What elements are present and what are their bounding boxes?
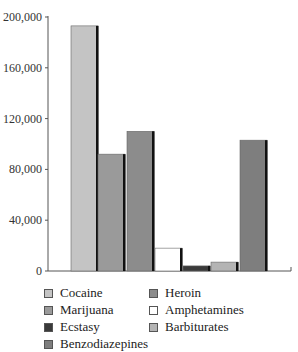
y-tick-label: 160,000 — [3, 61, 42, 75]
legend-swatch — [44, 289, 53, 298]
legend-label: Amphetamines — [165, 302, 244, 318]
y-tick-label: 200,000 — [3, 10, 42, 24]
legend-swatch — [149, 323, 158, 332]
legend-item-benzodiazepines: Benzodiazepines — [44, 336, 148, 352]
bar-chart: 040,00080,000120,000160,000200,000 — [0, 0, 298, 280]
legend-swatch — [44, 306, 53, 315]
legend-item-marijuana: Marijuana — [44, 302, 113, 318]
legend-item-cocaine: Cocaine — [44, 285, 103, 301]
legend-item-amphetamines: Amphetamines — [149, 302, 244, 318]
legend-label: Marijuana — [60, 302, 113, 318]
legend-item-barbiturates: Barbiturates — [149, 319, 229, 335]
legend-label: Benzodiazepines — [60, 336, 148, 352]
legend-label: Heroin — [165, 285, 201, 301]
bar-cocaine — [71, 26, 99, 271]
bar-benzodiazepines — [240, 140, 268, 271]
bar-heroin — [127, 131, 155, 271]
legend-label: Ecstasy — [60, 319, 100, 335]
legend-label: Barbiturates — [165, 319, 229, 335]
chart-bars — [71, 26, 268, 271]
legend-item-heroin: Heroin — [149, 285, 201, 301]
bar-barbiturates — [211, 262, 239, 271]
legend-swatch — [44, 323, 53, 332]
legend-swatch — [149, 289, 158, 298]
bar-ecstasy — [183, 266, 211, 271]
y-tick-label: 0 — [36, 264, 42, 278]
legend-item-ecstasy: Ecstasy — [44, 319, 100, 335]
legend-label: Cocaine — [60, 285, 103, 301]
bar-amphetamines — [155, 248, 183, 271]
y-tick-label: 80,000 — [9, 162, 42, 176]
y-tick-label: 120,000 — [3, 112, 42, 126]
bar-marijuana — [98, 154, 126, 271]
y-tick-label: 40,000 — [9, 213, 42, 227]
legend-swatch — [44, 340, 53, 349]
legend-swatch — [149, 306, 158, 315]
